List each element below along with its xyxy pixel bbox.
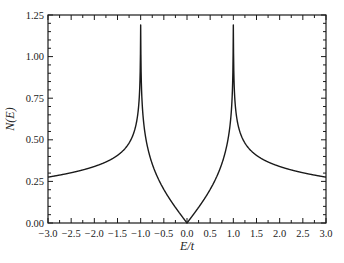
y-tick-label: 1.00: [26, 51, 44, 62]
x-tick-label: −3.0: [38, 228, 57, 239]
y-tick-label: 0.00: [26, 218, 44, 229]
x-tick-label: −1.0: [131, 228, 150, 239]
dos-chart: −3.0−2.5−2.0−1.5−1.0−0.50.00.51.01.52.02…: [0, 0, 344, 263]
x-tick-label: −2.0: [85, 228, 104, 239]
axis-ticks: [48, 15, 326, 223]
x-tick-labels: −3.0−2.5−2.0−1.5−1.0−0.50.00.51.01.52.02…: [38, 228, 332, 239]
x-tick-label: 2.0: [273, 228, 286, 239]
x-tick-label: 1.0: [227, 228, 240, 239]
dos-curve: [48, 25, 326, 223]
x-tick-label: −1.5: [108, 228, 127, 239]
plot-border: [48, 15, 326, 223]
x-axis-title: E/t: [179, 239, 195, 253]
y-axis-title: N(E): [3, 107, 17, 131]
y-tick-label: 0.25: [26, 176, 44, 187]
y-tick-label: 0.75: [26, 93, 44, 104]
y-tick-labels: 0.000.250.500.751.001.25: [26, 10, 44, 229]
x-tick-label: 0.0: [180, 228, 193, 239]
x-tick-label: −0.5: [154, 228, 173, 239]
plot-frame: [48, 15, 326, 223]
y-tick-label: 0.50: [26, 134, 44, 145]
x-tick-label: 0.5: [204, 228, 217, 239]
x-tick-label: 1.5: [250, 228, 263, 239]
y-tick-label: 1.25: [26, 10, 44, 21]
x-tick-label: 3.0: [319, 228, 332, 239]
x-tick-label: 2.5: [296, 228, 309, 239]
x-tick-label: −2.5: [62, 228, 81, 239]
